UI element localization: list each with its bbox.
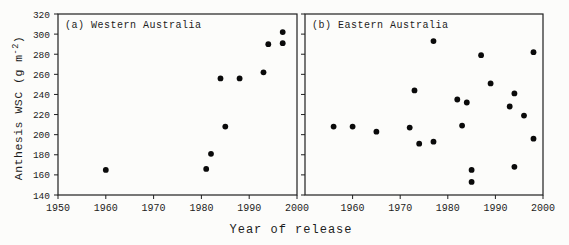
panel-a-y-tick-label: 200 — [33, 130, 50, 141]
panel-b-x-tick-label: 1970 — [388, 203, 412, 214]
panel-a-data-point — [265, 41, 271, 47]
panel-b-data-point — [431, 139, 437, 145]
panel-b-x-tick-label: 2000 — [531, 203, 555, 214]
panel-a-x-tick-label: 2000 — [285, 203, 309, 214]
y-axis-title: Anthesis WSC (g m-2) — [11, 36, 26, 180]
panel-b-data-point — [469, 179, 475, 185]
panel-b-data-point — [488, 81, 494, 87]
panel-b-data-point — [464, 100, 470, 106]
panel-a-data-point — [203, 166, 209, 172]
panel-b-data-point — [469, 167, 475, 173]
panel-a-title: (a) Western Australia — [65, 20, 202, 31]
panel-a-data-point — [261, 69, 267, 75]
panel-b-data-point — [531, 49, 537, 55]
panel-b-data-point — [459, 123, 465, 129]
panel-b-title: (b) Eastern Australia — [312, 20, 449, 31]
panel-b-data-point — [512, 91, 518, 97]
panel-b-border — [305, 14, 543, 195]
panel-a-data-point — [222, 124, 228, 130]
panel-a-y-tick-label: 300 — [33, 30, 50, 41]
panel-a-data-point — [280, 40, 286, 46]
panel-b-data-point — [507, 104, 513, 110]
panel-b-data-point — [416, 141, 422, 147]
panel-a-y-tick-label: 260 — [33, 70, 50, 81]
panel-a-x-tick-label: 1970 — [142, 203, 166, 214]
panel-a-y-tick-label: 320 — [33, 10, 50, 21]
x-axis-title: Year of release — [229, 223, 352, 237]
panel-a-data-point — [208, 151, 214, 157]
panel-a-x-tick-label: 1990 — [237, 203, 261, 214]
panel-b-data-point — [512, 164, 518, 170]
panel-a-border — [58, 14, 297, 195]
panel-b-data-point — [531, 136, 537, 142]
panel-a-data-point — [237, 76, 243, 82]
panel-a-y-tick-label: 180 — [33, 150, 50, 161]
panel-b-data-point — [374, 129, 380, 135]
panel-b-data-point — [331, 124, 337, 130]
panel-b-data-point — [431, 38, 437, 44]
scatter-figure: 1950196019701980199020001401601802002202… — [0, 0, 569, 245]
panel-b-x-tick-label: 1960 — [341, 203, 365, 214]
panel-a-y-tick-label: 140 — [33, 191, 50, 202]
panel-a-data-point — [280, 29, 286, 35]
panel-a-y-tick-label: 280 — [33, 50, 50, 61]
panel-b-x-tick-label: 1990 — [483, 203, 507, 214]
panel-b-x-tick-label: 1980 — [436, 203, 460, 214]
panel-a-data-point — [103, 167, 109, 173]
panel-b-data-point — [407, 125, 413, 131]
panel-a-x-tick-label: 1980 — [189, 203, 213, 214]
panel-b-data-point — [454, 97, 460, 103]
panel-b-data-point — [412, 88, 418, 94]
panel-b-data-point — [478, 52, 484, 58]
panel-a-y-tick-label: 160 — [33, 170, 50, 181]
panel-a-x-tick-label: 1950 — [46, 203, 70, 214]
panel-a-y-tick-label: 220 — [33, 110, 50, 121]
panel-a-data-point — [218, 76, 224, 82]
panel-a-y-tick-label: 240 — [33, 90, 50, 101]
panel-b-data-point — [350, 124, 356, 130]
figure-canvas: 1950196019701980199020001401601802002202… — [0, 0, 569, 245]
panel-a-x-tick-label: 1960 — [94, 203, 118, 214]
panel-b-data-point — [521, 113, 527, 119]
